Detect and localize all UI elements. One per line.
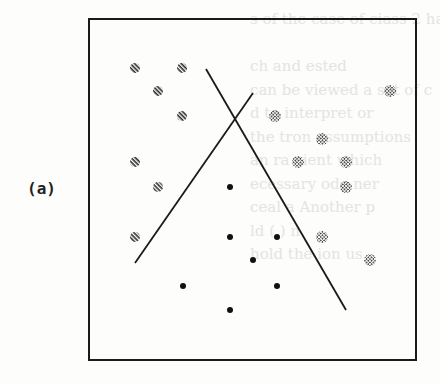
dotted-point: [364, 254, 376, 266]
dotted-point: [384, 85, 396, 97]
dotted-point: [316, 133, 328, 145]
solid-point: [250, 257, 256, 263]
dotted-point: [340, 181, 352, 193]
solid-point: [274, 283, 280, 289]
hatched-point: [153, 182, 163, 192]
hatched-point: [177, 63, 187, 73]
solid-point: [227, 184, 233, 190]
hatched-point: [153, 86, 163, 96]
scatter-figure: [0, 0, 440, 384]
dotted-point: [269, 110, 281, 122]
solid-point: [180, 283, 186, 289]
dotted-point: [292, 156, 304, 168]
dotted-point: [316, 231, 328, 243]
hatched-point: [130, 63, 140, 73]
hatched-point: [130, 232, 140, 242]
data-points: [130, 63, 396, 313]
dotted-point: [340, 156, 352, 168]
solid-point: [227, 234, 233, 240]
decision-boundary-2: [135, 93, 253, 263]
solid-point: [227, 307, 233, 313]
decision-boundary-1: [206, 69, 346, 310]
decision-boundaries: [135, 69, 346, 310]
hatched-point: [177, 111, 187, 121]
solid-point: [274, 234, 280, 240]
hatched-point: [130, 157, 140, 167]
